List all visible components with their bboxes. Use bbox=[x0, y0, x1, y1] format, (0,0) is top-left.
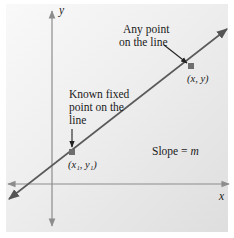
known-point-caption-line1: Known fixed bbox=[69, 88, 129, 100]
slope-variable: m bbox=[190, 145, 198, 157]
straight-line bbox=[9, 29, 227, 199]
known-point-caption-line2: point on the bbox=[69, 101, 124, 113]
known-point-label: (x₁, y₁) bbox=[68, 159, 97, 171]
slope-text: Slope = bbox=[152, 145, 190, 157]
any-point-caption-line2: on the line bbox=[119, 36, 168, 48]
coordinate-plane bbox=[0, 0, 234, 238]
any-point-marker bbox=[188, 63, 194, 69]
x-axis-label: x bbox=[219, 190, 224, 202]
known-point-marker bbox=[69, 149, 75, 155]
known-point-caption-line3: line bbox=[69, 114, 86, 126]
any-point-label: (x, y) bbox=[187, 73, 209, 85]
slope-label: Slope = m bbox=[152, 145, 199, 157]
y-axis-label: y bbox=[59, 4, 64, 16]
any-point-caption-line1: Any point bbox=[123, 23, 169, 35]
